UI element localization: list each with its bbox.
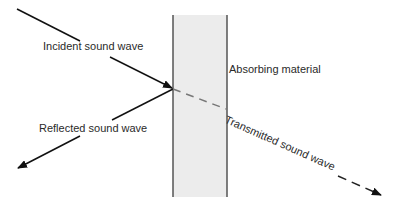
- absorbing-material-label: Absorbing material: [229, 63, 321, 75]
- incident-wave-line-upper: [17, 9, 80, 41]
- reflected-wave-line-upper: [112, 89, 173, 120]
- incident-wave-label: Incident sound wave: [43, 40, 143, 52]
- transmitted-wave-dashed-arrow: [338, 176, 381, 195]
- sound-wave-diagram: [0, 0, 396, 210]
- reflected-wave-arrow: [18, 136, 80, 168]
- reflected-wave-label: Reflected sound wave: [39, 122, 147, 134]
- incident-wave-arrow: [110, 57, 172, 88]
